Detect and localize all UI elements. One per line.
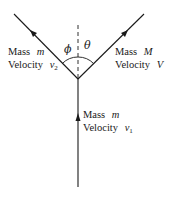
incoming-label: Mass m Velocity v1 [83,109,133,135]
svg-text:Mass m: Mass m [83,109,120,120]
phi-label: ϕ [64,43,72,56]
svg-text:Velocity v1: Velocity v1 [83,122,133,135]
outgoing-right-label: Mass M Velocity V [115,46,165,70]
incoming-mass-symbol: m [112,109,120,120]
right-mass-label: Mass [115,46,137,57]
right-velocity-symbol: V [157,59,165,70]
collision-diagram: ϕ θ Mass m Velocity v2 Mass M Velocity V… [0,0,169,204]
left-mass-label: Mass [8,46,30,57]
incoming-velocity-label: Velocity [83,122,119,133]
incoming-mass-label: Mass [83,109,105,120]
right-velocity-label: Velocity [115,59,151,70]
outgoing-left-label: Mass m Velocity v2 [8,46,58,72]
theta-label: θ [84,39,91,52]
left-velocity-subscript: 2 [54,64,58,72]
phi-angle-arc [62,57,78,63]
left-velocity-label: Velocity [8,59,44,70]
incoming-velocity-subscript: 1 [129,127,133,135]
right-mass-symbol: M [143,46,154,57]
left-mass-symbol: m [37,46,45,57]
incoming-arrow-icon [76,113,81,121]
svg-text:Velocity v2: Velocity v2 [8,59,58,72]
theta-angle-arc [78,57,94,64]
svg-text:Mass m: Mass m [8,46,45,57]
svg-text:Velocity V: Velocity V [115,59,165,70]
svg-text:Mass M: Mass M [115,46,154,57]
